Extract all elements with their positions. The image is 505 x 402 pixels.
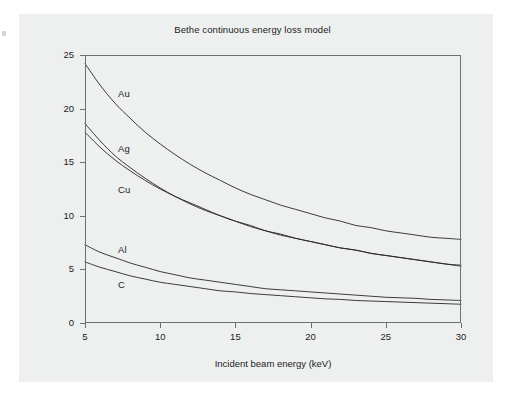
series-label-ag: Ag xyxy=(118,143,130,154)
x-tick-mark xyxy=(235,323,236,328)
y-tick-label: 10 xyxy=(44,210,74,221)
y-tick-label: 20 xyxy=(44,103,74,114)
chart-title: Bethe continuous energy loss model xyxy=(0,24,505,35)
series-label-cu: Cu xyxy=(118,184,130,195)
y-tick-label: 0 xyxy=(44,317,74,328)
series-label-c: C xyxy=(118,279,125,290)
x-tick-label: 10 xyxy=(145,331,175,342)
x-tick-label: 5 xyxy=(70,331,100,342)
x-tick-label: 20 xyxy=(296,331,326,342)
plot-frame xyxy=(85,55,461,323)
series-label-au: Au xyxy=(118,88,130,99)
x-tick-label: 25 xyxy=(371,331,401,342)
y-tick-label: 15 xyxy=(44,156,74,167)
y-tick-label: 5 xyxy=(44,263,74,274)
figure-root: Bethe continuous energy loss model 05101… xyxy=(0,0,505,402)
x-tick-mark xyxy=(160,323,161,328)
x-axis-title: Incident beam energy (keV) xyxy=(85,358,461,369)
x-tick-mark xyxy=(311,323,312,328)
x-tick-mark xyxy=(461,323,462,328)
x-tick-mark xyxy=(85,323,86,328)
y-tick-label: 25 xyxy=(44,49,74,60)
x-tick-label: 15 xyxy=(220,331,250,342)
x-tick-mark xyxy=(386,323,387,328)
x-tick-label: 30 xyxy=(446,331,476,342)
series-label-al: Al xyxy=(118,244,126,255)
